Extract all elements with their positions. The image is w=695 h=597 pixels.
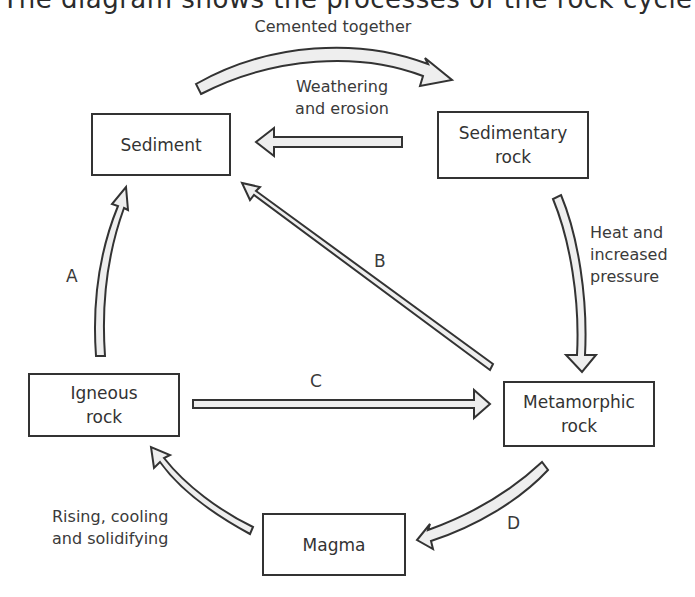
label-heat-pressure: Heat and increased pressure xyxy=(590,222,668,288)
arrow-d xyxy=(417,462,548,549)
label-weathering-line2: and erosion xyxy=(272,98,412,120)
node-magma: Magma xyxy=(262,513,406,576)
label-rising-line1: Rising, cooling xyxy=(52,506,168,528)
label-weathering-erosion: Weathering and erosion xyxy=(272,76,412,120)
node-metamorphic-rock-label-line1: Metamorphic xyxy=(523,390,635,414)
label-cemented-together: Cemented together xyxy=(228,16,438,38)
node-sedimentary-rock-label-line1: Sedimentary xyxy=(459,121,568,145)
node-igneous-rock: Igneous rock xyxy=(28,373,180,437)
node-sediment-label: Sediment xyxy=(120,133,201,157)
label-rising-cooling-solidifying: Rising, cooling and solidifying xyxy=(52,506,168,550)
node-magma-label: Magma xyxy=(303,533,366,557)
arrow-c xyxy=(193,390,490,418)
label-heat-line3: pressure xyxy=(590,266,668,288)
node-sedimentary-rock: Sedimentary rock xyxy=(437,111,589,179)
arrow-a xyxy=(95,187,128,356)
label-weathering-line1: Weathering xyxy=(272,76,412,98)
label-d: D xyxy=(507,512,520,534)
label-b: B xyxy=(374,250,386,272)
node-sedimentary-rock-label-line2: rock xyxy=(459,145,568,169)
node-metamorphic-rock: Metamorphic rock xyxy=(503,381,655,447)
label-heat-line2: increased xyxy=(590,244,668,266)
node-metamorphic-rock-label-line2: rock xyxy=(523,414,635,438)
label-rising-line2: and solidifying xyxy=(52,528,168,550)
node-igneous-rock-label-line1: Igneous xyxy=(70,381,137,405)
arrow-weathering-erosion xyxy=(256,128,402,156)
node-sediment: Sediment xyxy=(91,113,231,176)
rock-cycle-diagram: The diagram shows the processes of the r… xyxy=(0,0,695,597)
node-igneous-rock-label-line2: rock xyxy=(70,405,137,429)
label-a: A xyxy=(66,265,78,287)
arrow-b xyxy=(242,183,493,370)
label-heat-line1: Heat and xyxy=(590,222,668,244)
label-c: C xyxy=(310,370,322,392)
